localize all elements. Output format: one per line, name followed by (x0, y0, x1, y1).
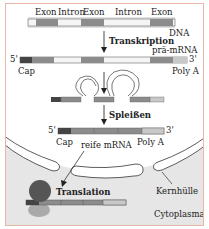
nuclear-envelope-middle (71, 164, 143, 178)
mature-mrna-5-prime: 5' (48, 126, 56, 135)
nuclear-envelope-label: Kernhülle (156, 187, 198, 196)
pre-mrna-3-prime: 3' (189, 55, 197, 64)
ribosome-large-subunit (29, 180, 51, 202)
spliced-segments (51, 97, 164, 102)
diagram-frame: Exon Intron Exon Intron Exon DNA Transkr… (5, 3, 204, 226)
dna-exon-label-2: Exon (83, 8, 105, 17)
transcription-arrow-head (101, 47, 107, 53)
pre-mrna-5-prime: 5' (10, 55, 18, 64)
mature-mrna-bar (58, 128, 164, 134)
pre-mrna-bar (20, 57, 187, 63)
dna-exon-label-1: Exon (35, 8, 57, 17)
splicing-arrow-head (101, 119, 107, 125)
cytoplasm-label: Cytoplasma (154, 210, 204, 219)
mature-mrna-cap-label: Cap (56, 138, 73, 147)
splicing-label: Spleißen (109, 111, 151, 120)
dna-exon-label-3: Exon (151, 8, 173, 17)
pre-mrna-cap-label: Cap (18, 67, 35, 76)
mature-mrna-3-prime: 3' (166, 126, 174, 135)
translation-label: Translation (56, 188, 110, 197)
mature-mrna-poly-a-label: Poly A (137, 138, 164, 147)
splice-join-arrow-head (101, 88, 107, 94)
intron-loops (76, 70, 139, 96)
dna-intron-label-2: Intron (115, 8, 142, 17)
dna-bar (28, 18, 175, 27)
mature-mrna-label: reife mRNA (81, 141, 132, 150)
pre-mrna-poly-a-label: Poly A (172, 67, 199, 76)
dna-intron-label-1: Intron (58, 8, 85, 17)
